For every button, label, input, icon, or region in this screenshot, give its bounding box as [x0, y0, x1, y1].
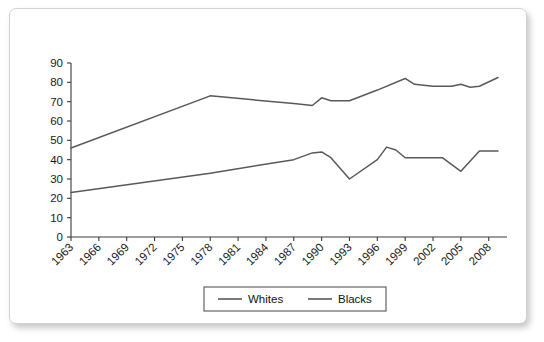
x-axis: 1963196619691972197519781981198419871990… — [49, 237, 507, 268]
line-chart: 0102030405060708090 19631966196919721975… — [10, 9, 528, 325]
x-tick-label: 1978 — [188, 241, 215, 268]
x-tick-label: 1966 — [77, 241, 104, 268]
chart-svg: 0102030405060708090 19631966196919721975… — [10, 9, 528, 325]
x-tick-label: 1972 — [132, 241, 159, 268]
y-tick-label: 20 — [50, 192, 63, 204]
y-tick-label: 70 — [50, 96, 63, 108]
y-tick-label: 80 — [50, 76, 63, 88]
chart-legend: WhitesBlacks — [204, 287, 386, 311]
x-tick-label: 2005 — [439, 241, 466, 268]
series-line-blacks — [71, 147, 498, 192]
y-axis: 0102030405060708090 — [50, 57, 71, 243]
x-tick-label: 1984 — [244, 241, 271, 268]
x-tick-label: 2008 — [467, 241, 494, 268]
series-line-whites — [71, 78, 498, 149]
data-series-group — [71, 78, 498, 193]
x-tick-label: 2002 — [411, 241, 438, 268]
chart-card: 0102030405060708090 19631966196919721975… — [9, 8, 527, 324]
x-tick-label: 1975 — [160, 241, 187, 268]
x-tick-label: 1993 — [327, 241, 354, 268]
y-tick-label: 10 — [50, 212, 63, 224]
x-tick-label: 1999 — [383, 241, 410, 268]
x-tick-label: 1996 — [355, 241, 382, 268]
legend-label-blacks: Blacks — [338, 293, 372, 305]
x-tick-label: 1987 — [272, 241, 299, 268]
y-tick-label: 90 — [50, 57, 63, 69]
y-tick-label: 40 — [50, 154, 63, 166]
x-tick-label: 1981 — [216, 241, 243, 268]
legend-label-whites: Whites — [248, 293, 283, 305]
x-tick-label: 1990 — [299, 241, 326, 268]
y-tick-label: 60 — [50, 115, 63, 127]
y-tick-label: 50 — [50, 134, 63, 146]
x-tick-label: 1969 — [105, 241, 132, 268]
y-tick-label: 0 — [57, 231, 63, 243]
x-tick-label: 1963 — [49, 241, 76, 268]
y-tick-label: 30 — [50, 173, 63, 185]
